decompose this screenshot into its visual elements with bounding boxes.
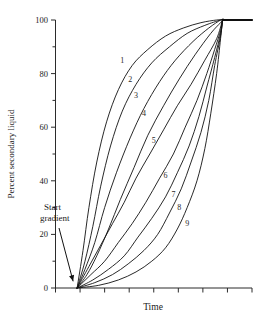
curve-1 [77, 20, 252, 288]
start-gradient-annotation: Startgradient [40, 202, 74, 281]
y-tick-label: 60 [40, 122, 49, 132]
y-tick-label: 0 [44, 283, 48, 293]
start-gradient-arrow-line [59, 228, 73, 281]
y-tick-label: 20 [40, 229, 49, 239]
curve-label-2: 2 [128, 75, 132, 84]
y-axis-title: Percent secondary liquid [6, 109, 16, 198]
curve-label-7: 7 [171, 190, 175, 199]
y-tick-label: 80 [40, 69, 49, 79]
curve-9 [77, 20, 252, 288]
line-chart-svg: 020406080100 123456789 Startgradient Per… [0, 0, 267, 322]
curve-4 [77, 20, 252, 288]
start-gradient-line2: gradient [40, 213, 70, 223]
start-gradient-line1: Start [44, 202, 61, 212]
curve-2 [77, 20, 252, 288]
curve-5 [77, 19, 252, 288]
curve-label-5: 5 [152, 136, 156, 145]
data-curves [77, 19, 252, 288]
curve-7 [77, 20, 252, 288]
y-axis-ticks [51, 20, 56, 288]
y-tick-label: 100 [35, 15, 48, 25]
y-axis-tick-labels: 020406080100 [35, 15, 48, 293]
curve-label-1: 1 [120, 56, 124, 65]
curve-6 [77, 20, 252, 288]
curve-3 [77, 19, 252, 288]
curve-label-4: 4 [142, 109, 146, 118]
curve-label-3: 3 [134, 91, 138, 100]
y-tick-label: 40 [40, 176, 49, 186]
curve-label-9: 9 [185, 219, 189, 228]
chart-figure: 020406080100 123456789 Startgradient Per… [0, 0, 267, 322]
curve-label-8: 8 [177, 203, 181, 212]
curve-label-6: 6 [164, 171, 168, 180]
x-axis-ticks [56, 288, 253, 293]
x-axis-title: Time [143, 302, 163, 312]
curve-8 [77, 20, 252, 288]
